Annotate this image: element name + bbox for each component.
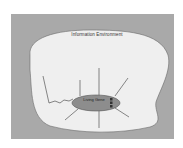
gene-marker-icon xyxy=(110,98,113,108)
region-label: Information Environment xyxy=(62,32,132,37)
center-label: Living Gene xyxy=(80,97,108,102)
information-environment-region xyxy=(30,30,169,132)
diagram-canvas xyxy=(0,0,183,148)
